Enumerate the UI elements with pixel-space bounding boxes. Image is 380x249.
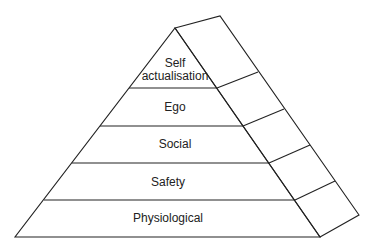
side-divider [243, 109, 284, 126]
side-divider [217, 72, 258, 88]
side-divider [269, 145, 310, 163]
level-label-safety: Safety [151, 176, 185, 189]
level-label-self-actualisation: Self actualisation [142, 57, 209, 83]
level-label-social: Social [159, 138, 192, 151]
side-divider [295, 181, 335, 200]
level-label-ego: Ego [164, 101, 185, 114]
level-label-physiological: Physiological [133, 212, 203, 225]
label-line: actualisation [142, 70, 209, 83]
